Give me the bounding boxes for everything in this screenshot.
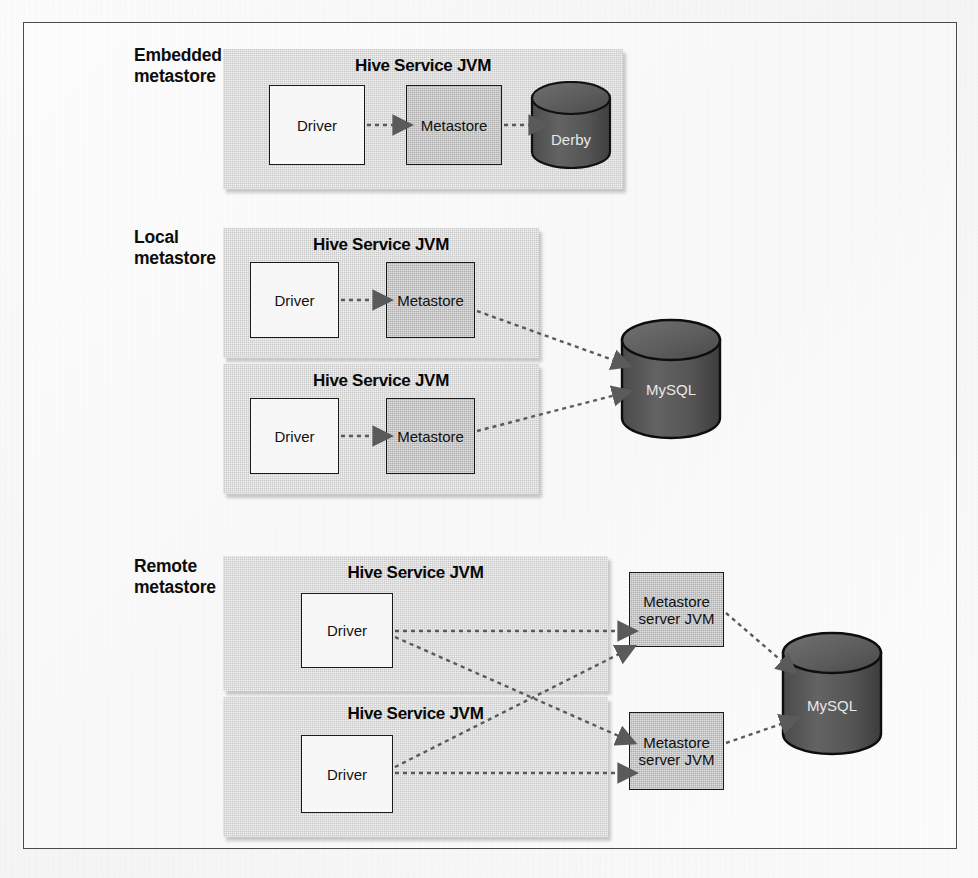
- local-metastore-node-2: Metastore: [386, 398, 475, 474]
- local-metastore-node-1: Metastore: [386, 262, 475, 338]
- embedded-driver-node: Driver: [269, 85, 365, 165]
- cylinder-icon: [620, 318, 722, 440]
- arrow-server2-to-mysql: [726, 723, 784, 743]
- node-label-line2: server JVM: [639, 751, 715, 768]
- jvm-title: Hive Service JVM: [223, 563, 608, 583]
- metastore-server-jvm-1: Metastore server JVM: [629, 572, 724, 647]
- jvm-title: Hive Service JVM: [223, 704, 608, 724]
- jvm-title: Hive Service JVM: [223, 371, 539, 391]
- node-label: Metastore: [421, 117, 488, 134]
- figure-page: Embedded metastore Hive Service JVM Driv…: [0, 0, 978, 878]
- local-mysql-database: MySQL: [620, 318, 722, 440]
- remote-mysql-database: MySQL: [781, 631, 883, 756]
- jvm-title: Hive Service JVM: [223, 235, 539, 255]
- node-label: Driver: [327, 766, 367, 783]
- remote-driver-node-2: Driver: [301, 735, 393, 813]
- jvm-title: Hive Service JVM: [223, 56, 623, 76]
- remote-driver-node-1: Driver: [301, 593, 393, 668]
- figure-frame: Embedded metastore Hive Service JVM Driv…: [23, 22, 957, 849]
- node-label: Driver: [297, 117, 337, 134]
- node-label: Metastore: [397, 428, 464, 445]
- local-driver-node-2: Driver: [250, 398, 339, 474]
- remote-hive-service-jvm-2: Hive Service JVM: [223, 697, 608, 837]
- node-label: Driver: [275, 292, 315, 309]
- embedded-metastore-node: Metastore: [406, 85, 502, 165]
- embedded-derby-database: Derby: [530, 81, 612, 169]
- cylinder-icon: [781, 631, 883, 756]
- node-label-line2: server JVM: [639, 610, 715, 627]
- cylinder-icon: [530, 81, 612, 169]
- arrow-server1-to-mysql: [726, 613, 784, 663]
- node-label-line1: Metastore: [643, 593, 710, 610]
- node-label: Driver: [327, 622, 367, 639]
- remote-hive-service-jvm-1: Hive Service JVM: [223, 556, 608, 691]
- node-label: Driver: [275, 428, 315, 445]
- node-label: Metastore: [397, 292, 464, 309]
- metastore-server-jvm-2: Metastore server JVM: [629, 712, 724, 790]
- local-driver-node-1: Driver: [250, 262, 339, 338]
- node-label-line1: Metastore: [643, 734, 710, 751]
